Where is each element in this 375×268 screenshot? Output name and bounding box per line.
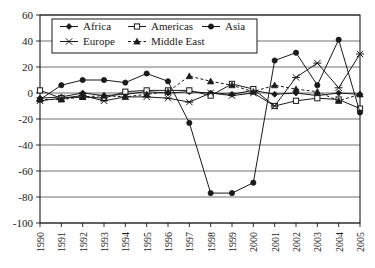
marker-open-square — [315, 96, 320, 101]
marker-filled-triangle — [207, 78, 213, 84]
marker-filled-circle — [293, 50, 298, 55]
chart-figure: 6040200-20-40-60-80-10019901991199219931… — [0, 0, 375, 268]
y-tick-label: -60 — [18, 165, 33, 177]
x-tick-label: 1992 — [78, 232, 89, 252]
marker-open-square — [134, 24, 139, 29]
marker-filled-circle — [315, 83, 320, 88]
marker-filled-triangle — [271, 82, 277, 88]
marker-filled-circle — [165, 79, 170, 84]
x-tick-label: 2001 — [270, 232, 281, 252]
marker-filled-circle — [336, 37, 341, 42]
marker-filled-circle — [59, 83, 64, 88]
x-tick-label: 1996 — [163, 232, 174, 252]
x-tick-label: 2004 — [334, 232, 345, 252]
x-tick-label: 1998 — [206, 232, 217, 252]
x-tick-label: 2003 — [312, 232, 323, 252]
marker-cross-x — [185, 99, 193, 105]
legend: AfricaAmericasAsiaEuropeMiddle East — [52, 19, 257, 53]
marker-filled-diamond — [336, 90, 342, 96]
legend-label: Europe — [83, 35, 115, 47]
x-tick-label: 1999 — [227, 232, 238, 252]
marker-filled-circle — [357, 110, 362, 115]
y-tick-label: -40 — [18, 139, 33, 151]
y-tick-label: 0 — [28, 87, 34, 99]
marker-filled-circle — [144, 71, 149, 76]
marker-filled-circle — [187, 120, 192, 125]
marker-filled-circle — [101, 77, 106, 82]
marker-filled-circle — [272, 58, 277, 63]
x-tick-label: 1990 — [35, 232, 46, 252]
y-tick-label: -80 — [18, 191, 33, 203]
legend-label: Africa — [83, 20, 111, 32]
y-tick-label: 20 — [22, 61, 34, 73]
marker-filled-triangle — [314, 89, 320, 95]
marker-filled-circle — [208, 191, 213, 196]
marker-filled-circle — [229, 191, 234, 196]
series-line — [40, 40, 360, 193]
marker-open-square — [187, 88, 192, 93]
y-tick-label: -100 — [13, 217, 34, 229]
legend-label: Asia — [225, 20, 245, 32]
legend-label: Americas — [151, 20, 193, 32]
marker-open-square — [37, 88, 42, 93]
x-axis-labels: 1990199119921993199419951996199719981999… — [35, 223, 366, 252]
marker-cross-x — [292, 74, 300, 80]
x-tick-label: 1997 — [184, 232, 195, 252]
x-tick-label: 1991 — [56, 232, 67, 252]
x-tick-label: 2000 — [248, 232, 259, 252]
y-tick-label: -20 — [18, 113, 33, 125]
marker-filled-circle — [80, 77, 85, 82]
legend-label: Middle East — [151, 35, 204, 47]
y-tick-label: 40 — [22, 35, 34, 47]
marker-cross-x — [313, 60, 321, 66]
x-tick-label: 1993 — [99, 232, 110, 252]
marker-filled-diamond — [229, 91, 235, 97]
marker-open-square — [293, 98, 298, 103]
marker-filled-circle — [123, 80, 128, 85]
marker-filled-diamond — [272, 91, 278, 97]
marker-filled-circle — [208, 24, 213, 29]
x-tick-label: 2002 — [291, 232, 302, 252]
line-chart-canvas: 6040200-20-40-60-80-10019901991199219931… — [0, 0, 375, 268]
x-tick-label: 1994 — [120, 232, 131, 252]
marker-filled-circle — [251, 180, 256, 185]
x-tick-label: 1995 — [142, 232, 153, 252]
y-tick-label: 60 — [22, 9, 34, 21]
x-tick-label: 2005 — [355, 232, 366, 252]
marker-filled-triangle — [186, 73, 192, 79]
series-asia — [37, 37, 362, 196]
